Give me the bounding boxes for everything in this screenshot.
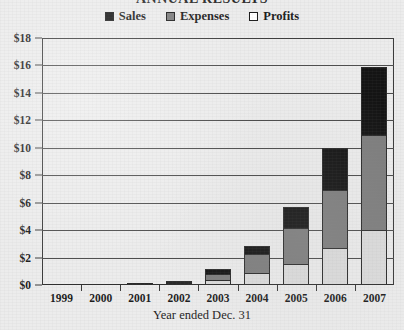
x-axis-tick-mark (198, 285, 199, 291)
x-axis-tick-label: 2003 (207, 292, 230, 304)
legend-item-sales[interactable]: Sales (105, 10, 146, 23)
x-axis-tick-label: 2007 (363, 292, 386, 304)
y-axis-tick-mark (35, 38, 42, 39)
bar-segment-profits[interactable] (361, 230, 387, 285)
y-axis-tick-label: $8 (20, 169, 32, 181)
x-axis-tick-mark (277, 285, 278, 291)
y-axis-tick-mark (35, 257, 42, 258)
y-axis-tick-label: $16 (14, 59, 31, 71)
bar-segment-sales[interactable] (361, 67, 387, 136)
bar-segment-expenses[interactable] (283, 228, 309, 265)
y-axis-tick-mark (35, 202, 42, 203)
y-axis-tick-label: $0 (20, 279, 32, 291)
y-axis-tick-mark (35, 92, 42, 93)
x-axis-tick-mark (355, 285, 356, 291)
x-axis-tick-mark (238, 285, 239, 291)
x-axis-tick-mark (120, 285, 121, 291)
bar-segment-profits[interactable] (283, 264, 309, 285)
y-axis-tick-mark (35, 147, 42, 148)
x-axis-tick-label: 1999 (50, 292, 73, 304)
y-axis-tick-mark (35, 65, 42, 66)
bar-segment-profits[interactable] (244, 273, 270, 285)
bar-segment-sales[interactable] (283, 207, 309, 229)
legend-swatch-sales (105, 12, 114, 21)
x-axis-tick-mark (316, 285, 317, 291)
bar-segment-profits[interactable] (322, 248, 348, 285)
y-axis-tick-mark (35, 285, 42, 286)
y-axis-tick-mark (35, 175, 42, 176)
legend-swatch-profits (249, 12, 258, 21)
bar-segment-expenses[interactable] (322, 190, 348, 249)
bar-segment-sales[interactable] (322, 148, 348, 191)
bar-stack[interactable] (283, 207, 309, 285)
bar-stack[interactable] (322, 148, 348, 285)
legend-item-expenses[interactable]: Expenses (166, 10, 229, 23)
x-axis-tick-label: 2006 (324, 292, 347, 304)
bar-series-container (42, 38, 394, 285)
legend-label-profits: Profits (263, 10, 299, 23)
legend-label-expenses: Expenses (180, 10, 229, 23)
legend-item-profits[interactable]: Profits (249, 10, 299, 23)
y-axis-tick-label: $6 (20, 197, 32, 209)
x-axis-tick-label: 2002 (167, 292, 190, 304)
y-axis-tick-label: $12 (14, 114, 31, 126)
x-axis-title: Year ended Dec. 31 (0, 308, 404, 323)
y-axis-tick-label: $10 (14, 142, 31, 154)
bar-stack[interactable] (361, 67, 387, 285)
legend-swatch-expenses (166, 12, 175, 21)
bar-segment-expenses[interactable] (361, 135, 387, 231)
y-axis-tick-label: $4 (20, 224, 32, 236)
bar-segment-expenses[interactable] (244, 254, 270, 273)
chart-legend: Sales Expenses Profits (0, 10, 404, 23)
bar-stack[interactable] (205, 269, 231, 285)
y-axis-tick-mark (35, 230, 42, 231)
x-axis-tick-label: 2001 (128, 292, 151, 304)
y-axis-tick-label: $14 (14, 87, 31, 99)
y-axis-tick-label: $18 (14, 32, 31, 44)
bar-stack[interactable] (244, 246, 270, 285)
chart-title: ANNUAL RESULTS (0, 0, 404, 3)
x-axis-tick-mark (81, 285, 82, 291)
x-axis-tick-label: 2005 (285, 292, 308, 304)
y-axis: $0$2$4$6$8$10$12$14$16$18 (0, 38, 42, 285)
y-axis-tick-label: $2 (20, 252, 32, 264)
x-axis: 199920002001200220032004200520062007 (42, 285, 394, 309)
x-axis-tick-label: 2000 (89, 292, 112, 304)
x-axis-tick-label: 2004 (246, 292, 269, 304)
legend-label-sales: Sales (119, 10, 146, 23)
x-axis-tick-mark (159, 285, 160, 291)
y-axis-tick-mark (35, 120, 42, 121)
